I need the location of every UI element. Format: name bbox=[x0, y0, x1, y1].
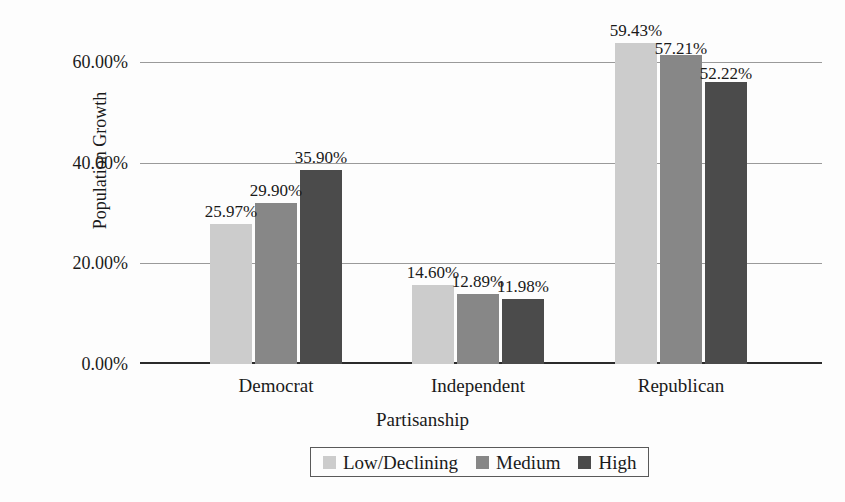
bar-label-democrat-medium: 29.90% bbox=[231, 182, 321, 199]
gridline-60 bbox=[140, 62, 822, 63]
legend-label-low-declining: Low/Declining bbox=[343, 453, 458, 472]
bar-label-republican-high: 52.22% bbox=[681, 65, 771, 82]
legend-swatch-icon-low-declining bbox=[323, 456, 336, 469]
legend-swatch-icon-high bbox=[578, 456, 591, 469]
bar-label-republican-medium: 57.21% bbox=[636, 40, 726, 57]
legend-item-high[interactable]: High bbox=[578, 453, 636, 472]
legend-item-low-declining[interactable]: Low/Declining bbox=[323, 453, 458, 472]
legend-item-medium[interactable]: Medium bbox=[476, 453, 560, 472]
x-tick-label-independent: Independent bbox=[398, 375, 558, 397]
y-tick-label-60: 60.00% bbox=[0, 53, 128, 71]
bar-republican-high[interactable] bbox=[705, 82, 747, 364]
legend-label-medium: Medium bbox=[496, 453, 560, 472]
y-tick-label-0: 0.00% bbox=[0, 355, 128, 373]
bar-label-independent-high: 11.98% bbox=[478, 278, 568, 295]
bar-democrat-low[interactable] bbox=[210, 224, 252, 364]
bar-republican-medium[interactable] bbox=[660, 55, 702, 364]
bar-label-democrat-high: 35.90% bbox=[276, 149, 366, 166]
y-tick-label-40: 40.00% bbox=[0, 154, 128, 172]
population-growth-bar-chart: Population Growth 60.00% 40.00% 20.00% 0… bbox=[0, 0, 845, 502]
plot-area: 25.97% 29.90% 35.90% 14.60% 12.89% 11.98… bbox=[140, 40, 822, 364]
bar-label-democrat-low: 25.97% bbox=[186, 203, 276, 220]
y-tick-label-20: 20.00% bbox=[0, 254, 128, 272]
bar-independent-medium[interactable] bbox=[457, 294, 499, 364]
x-tick-label-republican: Republican bbox=[601, 375, 761, 397]
bar-democrat-high[interactable] bbox=[300, 170, 342, 364]
bar-independent-low[interactable] bbox=[412, 285, 454, 364]
legend-label-high: High bbox=[598, 453, 636, 472]
bar-label-republican-low: 59.43% bbox=[591, 22, 681, 39]
bar-democrat-medium[interactable] bbox=[255, 203, 297, 364]
bar-republican-low[interactable] bbox=[615, 43, 657, 364]
x-axis-title: Partisanship bbox=[0, 409, 845, 431]
chart-legend: Low/Declining Medium High bbox=[310, 447, 649, 477]
legend-swatch-icon-medium bbox=[476, 456, 489, 469]
bar-independent-high[interactable] bbox=[502, 299, 544, 364]
x-tick-label-democrat: Democrat bbox=[196, 375, 356, 397]
